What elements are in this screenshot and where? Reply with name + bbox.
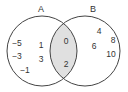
element-b: 10 — [106, 49, 116, 59]
set-a-label: A — [38, 4, 44, 14]
element-intersection: 2 — [64, 59, 69, 69]
element-b: 6 — [92, 41, 97, 51]
venn-diagram: A B −5 1 −3 3 −1 0 2 4 8 6 10 — [0, 0, 128, 92]
set-b-label: B — [90, 4, 96, 14]
element-a: 1 — [39, 40, 44, 50]
element-intersection: 0 — [64, 36, 69, 46]
element-a: −3 — [12, 51, 22, 61]
element-b: 8 — [111, 35, 116, 45]
element-b: 4 — [97, 26, 102, 36]
element-a: −5 — [12, 38, 22, 48]
element-a: −1 — [20, 65, 30, 75]
element-a: 3 — [39, 54, 44, 64]
